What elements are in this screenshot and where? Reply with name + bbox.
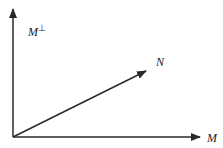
n-label: N	[156, 56, 164, 68]
n-vector	[13, 71, 146, 137]
vector-diagram	[0, 0, 223, 148]
m-perp-label: M⊥	[28, 24, 46, 38]
m-perp-label-base: M	[28, 25, 38, 39]
m-label: M	[207, 132, 217, 144]
perp-symbol: ⊥	[38, 23, 46, 33]
